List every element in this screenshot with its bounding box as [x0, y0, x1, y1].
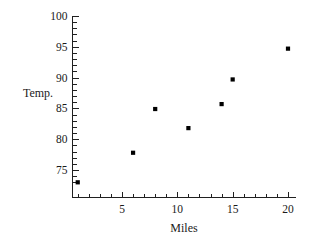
y-axis-tick-label: 95: [56, 41, 68, 53]
x-axis-title: Miles: [170, 221, 198, 235]
data-point: [186, 126, 190, 130]
data-point: [231, 77, 235, 81]
y-axis-tick-label: 75: [56, 164, 68, 176]
data-point: [286, 47, 290, 51]
y-axis-tick-label: 90: [56, 72, 68, 84]
y-axis-tick-label: 80: [56, 133, 68, 145]
data-point: [153, 107, 157, 111]
plot-background: [0, 0, 309, 243]
scatter-plot-figure: 7580859095100 5101520 Temp. Miles: [0, 0, 309, 243]
y-axis-tick-label: 85: [56, 102, 68, 114]
y-axis-title: Temp.: [23, 86, 53, 100]
x-axis-tick-label: 5: [119, 203, 125, 215]
data-point: [131, 151, 135, 155]
y-axis-tick-label: 100: [50, 10, 68, 22]
data-point: [220, 102, 224, 106]
plot-canvas: 7580859095100 5101520 Temp. Miles: [0, 0, 309, 243]
x-axis-tick-label: 15: [227, 203, 239, 215]
data-point: [76, 180, 80, 184]
x-axis-tick-label: 20: [282, 203, 294, 215]
x-axis-tick-label: 10: [172, 203, 184, 215]
